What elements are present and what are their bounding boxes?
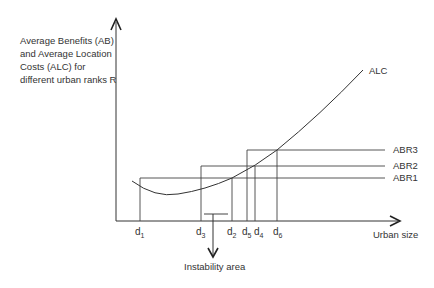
alc-curve — [132, 70, 363, 195]
y-label-line: Costs (ALC) for — [20, 60, 120, 73]
abr1-label: ABR1 — [393, 172, 418, 183]
tick-d1: d1 — [135, 226, 144, 239]
tick-d6: d6 — [273, 226, 282, 239]
abr2-label: ABR2 — [393, 160, 418, 171]
tick-d4: d4 — [254, 226, 263, 239]
x-axis-label: Urban size — [373, 229, 418, 240]
y-label-line: and Average Location — [20, 47, 120, 60]
y-label-line: different urban ranks R — [20, 73, 120, 86]
alc-label: ALC — [369, 65, 387, 76]
instability-label: Instability area — [184, 261, 245, 272]
tick-d2: d2 — [227, 226, 236, 239]
tick-d3: d3 — [196, 226, 205, 239]
y-label-line: Average Benefits (AB) — [20, 34, 120, 47]
tick-d5: d5 — [242, 226, 251, 239]
abr3-label: ABR3 — [393, 144, 418, 155]
y-axis-label: Average Benefits (AB) and Average Locati… — [20, 34, 120, 86]
